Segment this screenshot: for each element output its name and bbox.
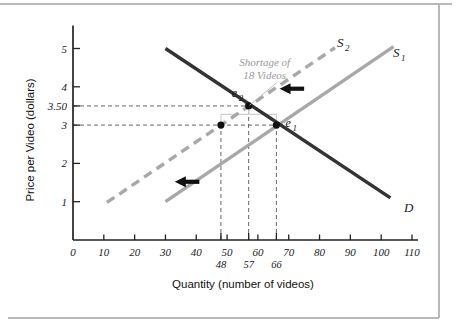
x-special-tick-label-57: 57	[243, 259, 254, 270]
figure-frame: 01020304050607080901001101233.5045485766…	[0, 0, 456, 331]
y-axis-title: Price per Video (dollars)	[24, 78, 36, 201]
x-special-tick-label-66: 66	[271, 259, 282, 270]
x-special-tick-label-48: 48	[216, 259, 227, 270]
curve-label-text-D: D	[403, 200, 414, 215]
curve-label-sub-S1: 1	[401, 53, 406, 63]
y-tick-label-2: 2	[62, 157, 68, 169]
guide-lines-layer	[73, 106, 276, 240]
point-label-text-e2: e	[232, 86, 238, 100]
y-tick-label-5: 5	[62, 43, 68, 55]
x-tick-label-110: 110	[404, 246, 420, 258]
x-tick-label-60: 60	[252, 246, 264, 258]
y-tick-label-3: 3	[61, 119, 68, 131]
curve-label-S2: S2	[337, 35, 350, 53]
x-tick-label-100: 100	[373, 246, 390, 258]
x-tick-label-50: 50	[222, 246, 234, 258]
curve-label-text-S2: S	[337, 35, 344, 50]
point-label-text-e1: e	[285, 116, 291, 130]
supply-demand-chart: 01020304050607080901001101233.5045485766…	[0, 0, 456, 331]
y-tick-label-4: 4	[62, 81, 68, 93]
x-tick-label-30: 30	[159, 246, 172, 258]
shortage-annotation: Shortage of18 Videos	[239, 56, 292, 105]
shortage-leader-line	[250, 83, 277, 105]
y-tick-label-1: 1	[62, 196, 68, 208]
point-quantity-supplied-at-3	[217, 122, 224, 129]
x-tick-label-40: 40	[191, 246, 203, 258]
point-e1	[273, 122, 280, 129]
annotations-layer: Shortage of18 Videos	[239, 56, 292, 105]
x-tick-label-90: 90	[345, 246, 357, 258]
shortage-annotation-line1: Shortage of	[239, 56, 292, 68]
y-tick-label-3.5: 3.50	[47, 100, 68, 112]
x-axis-title: Quantity (number of videos)	[172, 278, 314, 290]
x-tick-label-0: 0	[70, 246, 76, 258]
curve-label-D: D	[403, 200, 414, 215]
curve-label-S1: S1	[393, 45, 406, 63]
curve-label-sub-S2: 2	[345, 43, 350, 53]
shortage-annotation-line2: 18 Videos	[243, 69, 286, 81]
x-tick-label-20: 20	[129, 246, 141, 258]
x-tick-label-80: 80	[314, 246, 326, 258]
curve-label-text-S1: S	[393, 45, 400, 60]
point-label-sub-e1: 1	[292, 123, 297, 133]
x-tick-label-70: 70	[283, 246, 295, 258]
x-tick-label-10: 10	[98, 246, 110, 258]
point-label-sub-e2: 2	[239, 93, 244, 103]
